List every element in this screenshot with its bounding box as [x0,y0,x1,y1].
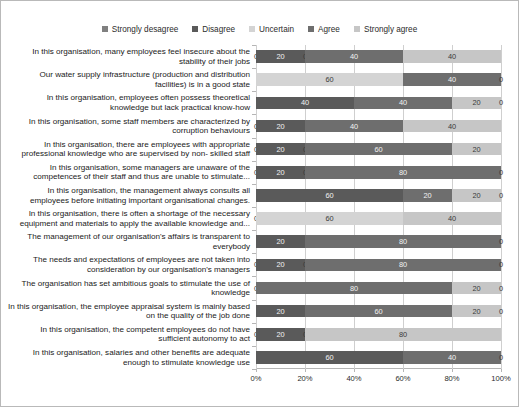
category-label-7: In this organisation, there is often a s… [7,209,250,228]
bar-segment[interactable]: 20 [256,235,305,248]
bar-segment[interactable]: 60 [256,351,403,364]
x-tick-label: 40% [346,374,361,383]
bar-row-3[interactable]: 0204040 [256,120,501,133]
y-tick-mark [252,300,256,301]
x-tick-mark-60 [403,369,404,372]
x-tick-label: 20% [297,374,312,383]
bar-segment[interactable]: 40 [305,120,403,133]
bar-segment[interactable]: 20 [452,305,501,318]
bar-segment[interactable]: 20 [452,97,501,110]
bar-row-6[interactable]: 6020200 [256,189,501,202]
legend-item-4[interactable]: Strongly agree [354,25,417,34]
category-label-5: In this organisation, some managers are … [7,163,250,182]
bar-segment[interactable]: 60 [305,143,452,156]
gridline-60 [403,45,404,369]
gridline-0 [256,45,257,369]
bar-row-2[interactable]: 4040200 [256,97,501,110]
bar-segment[interactable]: 20 [256,120,305,133]
bar-data-label: 20 [423,191,431,200]
bar-row-8[interactable]: 20800 [256,235,501,248]
bar-segment[interactable]: 40 [305,50,403,63]
bar-row-1[interactable]: 60400 [256,73,501,86]
x-tick-mark-20 [305,369,306,372]
bar-data-label: 80 [399,330,407,339]
legend-item-0[interactable]: Strongly desagree [102,25,178,34]
bar-segment[interactable]: 60 [256,73,403,86]
bar-row-13[interactable]: 60400 [256,351,501,364]
bar-row-5[interactable]: 0200800 [256,166,501,179]
bar-data-label: 40 [399,98,407,107]
gridline-100 [501,45,502,369]
category-label-9: The needs and expectations of employees … [7,255,250,274]
category-label-6: In this organisation, the management alw… [7,186,250,205]
bar-segment[interactable]: 80 [256,282,452,295]
bar-segment[interactable]: 20 [256,50,305,63]
bar-segment[interactable]: 40 [403,120,501,133]
x-tick-label: 80% [444,374,459,383]
bar-segment[interactable]: 20 [256,166,305,179]
bar-segment[interactable]: 80 [305,235,501,248]
bar-segment[interactable]: 40 [256,97,354,110]
bar-data-label: 20 [276,307,284,316]
bar-segment[interactable]: 20 [256,305,305,318]
bar-segment[interactable]: 40 [403,212,501,225]
bar-data-label: 20 [276,168,284,177]
bar-row-10[interactable]: 080200 [256,282,501,295]
y-tick-mark [252,114,256,115]
legend-item-3[interactable]: Agree [308,25,340,34]
y-tick-mark [252,323,256,324]
bar-segment[interactable]: 20 [256,143,305,156]
bar-data-label: 20 [472,191,480,200]
bar-segment[interactable]: 40 [403,351,501,364]
bar-segment[interactable]: 20 [452,282,501,295]
bar-segment[interactable]: 20 [452,143,501,156]
bar-segment[interactable]: 60 [256,212,403,225]
bar-data-label: 20 [276,237,284,246]
category-label-13: In this organisation, salaries and other… [7,348,250,367]
bar-segment[interactable]: 20 [256,328,305,341]
bar-data-label: 40 [448,75,456,84]
bar-data-label: 20 [276,122,284,131]
category-label-3: In this organisation, some staff members… [7,117,250,136]
bar-segment[interactable]: 40 [403,50,501,63]
bar-segment[interactable]: 20 [403,189,452,202]
bar-data-label: 20 [472,307,480,316]
bar-segment[interactable]: 20 [256,259,305,272]
category-label-11: In this organisation, the employee appra… [7,302,250,321]
bar-data-label: 20 [276,260,284,269]
gridline-40 [354,45,355,369]
bar-data-label: 20 [276,330,284,339]
bar-segment[interactable]: 60 [256,189,403,202]
bar-data-label: 80 [399,260,407,269]
bar-row-0[interactable]: 02004040 [256,50,501,63]
bar-data-label: 20 [472,98,480,107]
bar-row-7[interactable]: 06040 [256,212,501,225]
y-tick-mark [252,91,256,92]
category-label-0: In this organisation, many employees fee… [7,47,250,66]
legend-item-1[interactable]: Disagree [192,25,235,34]
bar-row-12[interactable]: 020080 [256,328,501,341]
gridline-20 [305,45,306,369]
bar-segment[interactable]: 40 [403,73,501,86]
bar-segment[interactable]: 20 [452,189,501,202]
legend-item-label: Uncertain [259,25,294,34]
x-axis-line [256,368,501,369]
bar-row-4[interactable]: 02006020 [256,143,501,156]
category-label-1: Our water supply infrastructure (product… [7,70,250,89]
gridline-80 [452,45,453,369]
x-tick-mark-0 [256,369,257,372]
category-label-8: The management of our organisation's aff… [7,232,250,251]
bar-data-label: 40 [448,122,456,131]
bar-segment[interactable]: 80 [305,328,501,341]
x-tick-mark-80 [452,369,453,372]
bar-segment[interactable]: 40 [354,97,452,110]
bar-row-9[interactable]: 0200800 [256,259,501,272]
bar-segment[interactable]: 60 [305,305,452,318]
bar-row-11[interactable]: 2060200 [256,305,501,318]
bar-segment[interactable]: 80 [305,166,501,179]
y-tick-mark [252,253,256,254]
legend-item-2[interactable]: Uncertain [249,25,294,34]
y-tick-mark [252,161,256,162]
bar-data-label: 20 [276,145,284,154]
bar-segment[interactable]: 80 [305,259,501,272]
